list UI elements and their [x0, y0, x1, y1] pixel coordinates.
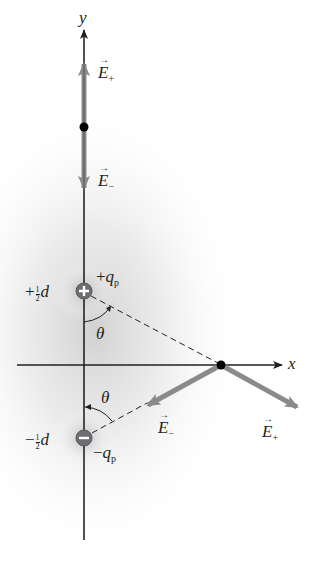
- e-minus-label-xaxis: E−: [158, 419, 174, 439]
- sign: −: [93, 443, 103, 462]
- sign: +: [25, 282, 35, 301]
- sign: −: [25, 430, 35, 449]
- e-subscript: +: [108, 73, 114, 84]
- positive-charge: [76, 283, 92, 299]
- e-plus-label-xaxis: E+: [262, 423, 278, 443]
- e-subscript: −: [168, 428, 174, 439]
- negative-charge-label: −qp: [93, 444, 116, 464]
- e-symbol: E: [98, 64, 108, 81]
- e-minus-label-upper: E−: [98, 172, 114, 192]
- fraction: 12: [36, 286, 40, 303]
- field-point-y-axis: [80, 123, 89, 132]
- e-symbol: E: [158, 419, 168, 436]
- sign: +: [96, 267, 106, 286]
- e-symbol: E: [262, 423, 272, 440]
- field-point-x-axis: [217, 361, 226, 370]
- q-subscript: p: [114, 277, 119, 288]
- theta-label-upper: θ: [96, 325, 104, 342]
- e-plus-label-upper: E+: [98, 64, 114, 84]
- d-symbol: d: [41, 430, 50, 449]
- positive-position-label: +12d: [25, 283, 49, 303]
- q-subscript: p: [111, 453, 116, 464]
- q-symbol: q: [106, 267, 115, 286]
- e-symbol: E: [98, 172, 108, 189]
- d-symbol: d: [41, 282, 50, 301]
- positive-charge-label: +qp: [96, 268, 119, 288]
- negative-charge: [76, 430, 92, 446]
- e-subscript: −: [108, 181, 114, 192]
- e-subscript: +: [272, 432, 278, 443]
- negative-position-label: −12d: [25, 431, 49, 451]
- dipole-diagram: [0, 0, 314, 561]
- y-axis-label: y: [79, 9, 87, 26]
- field-glow: [0, 100, 245, 560]
- q-symbol: q: [103, 443, 112, 462]
- fraction: 12: [36, 434, 40, 451]
- theta-label-lower: θ: [101, 389, 109, 406]
- x-axis-label: x: [288, 355, 296, 372]
